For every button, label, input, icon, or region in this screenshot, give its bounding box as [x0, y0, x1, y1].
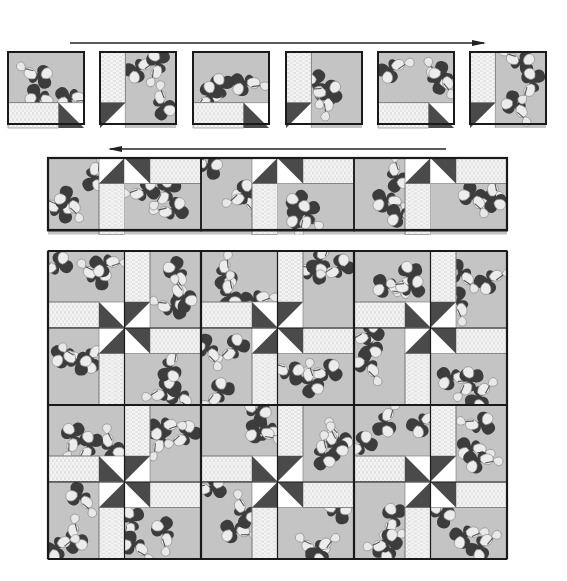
stripe-strip — [201, 456, 252, 482]
stripe-strip — [431, 405, 457, 456]
step1-unit-1 — [8, 50, 96, 128]
stripe-strip — [303, 328, 354, 354]
stripe-strip — [99, 184, 125, 235]
stripe-strip — [456, 482, 507, 508]
block-2-1-unit-1-2 — [125, 405, 204, 482]
block-2-2-unit-1-2 — [278, 405, 356, 482]
stripe-strip — [48, 302, 99, 328]
direction-arrow-right — [70, 40, 486, 46]
stripe-strip — [99, 508, 125, 559]
block-2-1-unit-2-1 — [40, 479, 124, 564]
stripe-strip — [303, 482, 354, 508]
block-1-1-unit-2-1 — [45, 328, 125, 405]
block-1-3-unit-1-1 — [354, 251, 431, 328]
stripe-strip — [456, 158, 507, 184]
stripe-strip — [252, 354, 278, 405]
stripe-strip — [405, 184, 431, 235]
stripe-strip — [470, 52, 495, 103]
block-1-1-unit-1-2 — [125, 251, 202, 328]
step2-unit-right-1 — [120, 158, 201, 235]
stripe-strip — [354, 456, 405, 482]
stripe-strip — [405, 508, 431, 559]
block-2-3-unit-1-2 — [431, 402, 508, 481]
stripe-strip — [278, 405, 304, 456]
stripe-strip — [252, 508, 278, 559]
stripe-strip — [125, 251, 151, 302]
quilt-diagram — [0, 0, 567, 581]
stripe-strip — [150, 328, 201, 354]
step2-joined-row — [38, 139, 515, 243]
block-2-3-unit-2-1 — [354, 482, 431, 567]
block-2-2-unit-2-2 — [278, 482, 358, 569]
step2-unit-left-3 — [354, 152, 431, 240]
block-1-2-unit-2-2 — [266, 328, 354, 405]
stripe-strip — [456, 328, 507, 354]
stripe-strip — [252, 184, 278, 235]
stripe-strip — [303, 158, 354, 184]
block-1-3-unit-2-2 — [431, 328, 508, 416]
block-1-3-unit-2-1 — [345, 319, 430, 405]
stripe-strip — [201, 302, 252, 328]
step1-units-row — [8, 35, 550, 132]
step2-unit-left-1 — [38, 152, 125, 235]
step3-quilt-top — [33, 238, 515, 572]
block-1-2-unit-1-1 — [201, 249, 280, 327]
step1-unit-5 — [375, 52, 457, 128]
stripe-strip — [286, 52, 311, 103]
block-2-3-unit-2-2 — [424, 482, 507, 565]
step1-unit-6 — [470, 35, 550, 132]
step1-unit-2 — [100, 43, 179, 128]
stripe-strip — [431, 251, 457, 302]
block-2-1-unit-1-1 — [48, 405, 126, 482]
stripe-strip — [150, 482, 201, 508]
block-1-2-unit-2-1 — [191, 328, 278, 411]
block-1-3-unit-1-2 — [431, 251, 515, 328]
stripe-strip — [99, 354, 125, 405]
step2-unit-right-3 — [431, 158, 515, 235]
stripe-strip — [354, 302, 405, 328]
stripe-strip — [150, 158, 201, 184]
stripe-strip — [125, 405, 151, 456]
step1-unit-4 — [286, 52, 362, 128]
direction-arrow-left — [108, 146, 446, 152]
stripe-strip — [100, 52, 125, 103]
step1-unit-3 — [182, 52, 271, 128]
stripe-strip — [48, 456, 99, 482]
stripe-strip — [405, 354, 431, 405]
stripe-strip — [278, 251, 304, 302]
